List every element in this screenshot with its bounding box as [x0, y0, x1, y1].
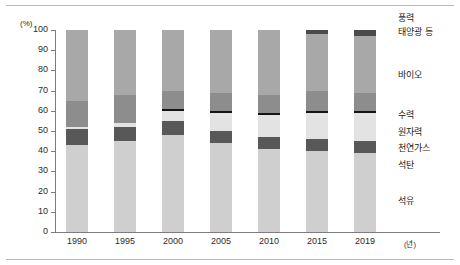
chart-figure: (%) 0102030405060708090100 1990199520002…: [0, 0, 460, 265]
stacked-bar[interactable]: [162, 30, 184, 232]
bar-segment[interactable]: [354, 141, 376, 153]
bar-segment[interactable]: [258, 30, 280, 95]
legend-item-1: 태양광 등: [398, 27, 433, 37]
x-axis-tick-label: 2015: [295, 236, 339, 246]
frame-bottom-divider: [6, 259, 454, 260]
bar-segment[interactable]: [162, 135, 184, 232]
bar-segment[interactable]: [114, 30, 136, 95]
bar-segment[interactable]: [114, 141, 136, 232]
chart-legend: 풍력태양광 등바이오수력원자력천연가스석탄석유: [398, 0, 460, 265]
bar-segment[interactable]: [354, 113, 376, 141]
x-axis-tick-label: 2010: [247, 236, 291, 246]
bar-segment[interactable]: [210, 113, 232, 131]
bar-segment[interactable]: [66, 101, 88, 127]
x-axis-tick-label: 2019: [343, 236, 387, 246]
stacked-bar[interactable]: [354, 30, 376, 232]
bar-segment[interactable]: [114, 95, 136, 123]
bar-segment[interactable]: [66, 129, 88, 145]
x-axis-tick-label: 1995: [103, 236, 147, 246]
bar-segment[interactable]: [210, 131, 232, 143]
bar-segment[interactable]: [162, 111, 184, 121]
bar-segment[interactable]: [306, 139, 328, 151]
bar-segment[interactable]: [354, 36, 376, 93]
y-axis-tick-label: 30: [14, 166, 48, 175]
x-axis-line: [55, 232, 440, 233]
legend-item-5: 천연가스: [398, 143, 430, 153]
x-axis-tick-label: 2005: [199, 236, 243, 246]
x-axis-tick-label: 1990: [55, 236, 99, 246]
legend-item-0: 풍력: [398, 13, 414, 23]
y-axis-tick-mark: [51, 232, 55, 233]
y-axis-tick-label: 50: [14, 126, 48, 135]
bar-segment[interactable]: [114, 127, 136, 141]
bar-segment[interactable]: [210, 93, 232, 111]
bar-segment[interactable]: [354, 153, 376, 232]
y-axis-tick-label: 80: [14, 65, 48, 74]
legend-item-7: 석유: [398, 196, 414, 206]
bar-segment[interactable]: [306, 91, 328, 111]
y-axis-tick-label: 0: [14, 227, 48, 236]
y-axis-tick-label: 10: [14, 207, 48, 216]
bar-segment[interactable]: [306, 34, 328, 91]
stacked-bar[interactable]: [210, 30, 232, 232]
bar-segment[interactable]: [162, 30, 184, 91]
bar-segment[interactable]: [66, 145, 88, 232]
y-axis-tick-label: 70: [14, 86, 48, 95]
legend-item-4: 원자력: [398, 127, 422, 137]
y-axis-tick-label: 60: [14, 106, 48, 115]
stacked-bar[interactable]: [66, 30, 88, 232]
frame-top-divider: [6, 5, 454, 6]
bar-segment[interactable]: [66, 30, 88, 101]
bar-segment[interactable]: [258, 149, 280, 232]
bar-segment[interactable]: [354, 93, 376, 111]
bar-segment[interactable]: [162, 121, 184, 135]
y-axis-tick-label: 100: [14, 25, 48, 34]
plot-area: [55, 30, 395, 232]
bar-segment[interactable]: [306, 113, 328, 139]
bar-segment[interactable]: [258, 137, 280, 149]
bar-segment[interactable]: [210, 143, 232, 232]
bar-segment[interactable]: [210, 30, 232, 93]
legend-item-2: 바이오: [398, 70, 422, 80]
bar-segment[interactable]: [258, 95, 280, 113]
stacked-bar[interactable]: [114, 30, 136, 232]
legend-item-6: 석탄: [398, 160, 414, 170]
stacked-bar[interactable]: [306, 30, 328, 232]
y-axis-tick-label: 40: [14, 146, 48, 155]
x-axis-tick-label: 2000: [151, 236, 195, 246]
bar-segment[interactable]: [306, 151, 328, 232]
bar-segment[interactable]: [162, 91, 184, 109]
y-axis-tick-label: 20: [14, 187, 48, 196]
stacked-bar[interactable]: [258, 30, 280, 232]
y-axis-tick-label: 90: [14, 45, 48, 54]
y-axis-tick-labels: 0102030405060708090100: [10, 0, 48, 265]
legend-item-3: 수력: [398, 110, 414, 120]
bar-segment[interactable]: [258, 115, 280, 137]
